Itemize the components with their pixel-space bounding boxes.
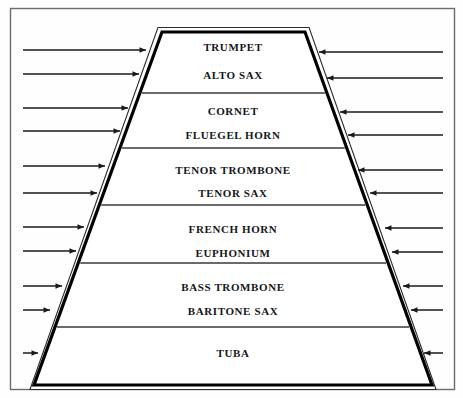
instrument-label: FLUEGEL HORN xyxy=(2,130,463,141)
instrument-label: TRUMPET xyxy=(2,42,463,53)
instrument-label: EUPHONIUM xyxy=(2,248,463,259)
instrument-label: BARITONE SAX xyxy=(2,306,463,317)
diagram-canvas: TRUMPETALTO SAXCORNETFLUEGEL HORNTENOR T… xyxy=(0,0,463,398)
instrument-label: CORNET xyxy=(2,106,463,117)
instrument-label: FRENCH HORN xyxy=(2,224,463,235)
instrument-label: TENOR TROMBONE xyxy=(2,165,463,176)
instrument-label: TUBA xyxy=(2,348,463,359)
instrument-label: TENOR SAX xyxy=(2,188,463,199)
instrument-label: ALTO SAX xyxy=(2,70,463,81)
instrument-label-layer: TRUMPETALTO SAXCORNETFLUEGEL HORNTENOR T… xyxy=(0,0,463,398)
instrument-label: BASS TROMBONE xyxy=(2,282,463,293)
